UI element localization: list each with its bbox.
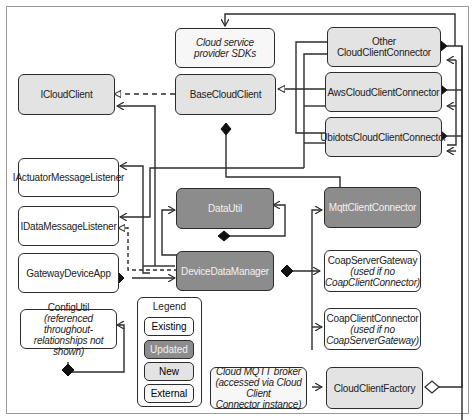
aws-connector-label: AwsCloudClientConnector [328,87,440,98]
coap-client-line3: CoapServerGateway) [326,335,419,346]
ubidots-connector-box: UbidotsCloudClientConnector [325,117,442,157]
iactuator-listener-box: IActuatorMessageListener [18,158,119,197]
iactuator-listener-label: IActuatorMessageListener [13,172,124,183]
device-data-manager-box: DeviceDataManager [176,251,274,291]
icloudclient-box: ICloudClient [18,74,115,115]
coap-client-line2: (used if no [350,324,395,335]
cloud-sdks-line1: Cloud service [196,37,254,48]
cloud-client-factory-box: CloudClientFactory [326,367,423,409]
coap-server-line3: CoapClientConnector) [325,277,420,288]
configutil-line2: (referenced throughout- [21,313,116,335]
configutil-box: ConfigUtil (referenced throughout- relat… [20,309,117,349]
cloud-mqtt-broker-box: Cloud MQTT broker (accessed via Cloud Cl… [210,367,307,409]
cloud-sdks-box: Cloud service provider SDKs [175,28,275,68]
cloud-mqtt-line3: Connector instance) [216,399,302,410]
cloud-client-factory-label: CloudClientFactory [334,383,415,394]
configutil-line1: ConfigUtil [48,302,89,313]
cloud-mqtt-line2: (accessed via Cloud Client [211,377,306,399]
basecloudclient-box: BaseCloudClient [175,74,276,115]
cloud-sdks-line2: provider SDKs [194,48,256,59]
legend-title: Legend [138,301,201,312]
legend-item-updated: Updated [144,340,194,359]
gateway-app-label: GatewayDeviceApp [26,268,111,279]
coap-client-line1: CoapClientConnector [327,313,419,324]
coap-server-line2: (used if no [350,266,395,277]
basecloudclient-label: BaseCloudClient [190,89,262,100]
icloudclient-label: ICloudClient [40,89,92,100]
legend-item-external: External [144,384,194,403]
device-data-manager-label: DeviceDataManager [181,266,269,277]
mqtt-connector-label: MqttClientConnector [329,202,416,213]
legend: Legend Existing Updated New External [137,297,202,407]
ubidots-connector-label: UbidotsCloudClientConnector [320,132,446,143]
coap-server-gateway-box: CoapServerGateway (used if no CoapClient… [324,250,421,292]
datautil-box: DataUtil [176,188,274,229]
idata-listener-label: IDataMessageListener [20,221,116,232]
gateway-app-box: GatewayDeviceApp [18,253,119,293]
legend-item-new: New [144,362,194,381]
aws-connector-box: AwsCloudClientConnector [325,72,442,112]
cloud-mqtt-line1: Cloud MQTT broker [216,366,301,377]
coap-client-connector-box: CoapClientConnector (used if no CoapServ… [324,308,421,350]
mqtt-connector-box: MqttClientConnector [324,187,421,228]
legend-item-existing: Existing [144,317,194,336]
coap-server-line1: CoapServerGateway [328,255,417,266]
datautil-label: DataUtil [208,203,242,214]
idata-listener-box: IDataMessageListener [18,206,119,246]
other-connector-box: Other CloudClientConnector [327,27,441,67]
other-connector-label: Other CloudClientConnector [328,36,440,58]
configutil-line3: relationships not shown) [21,335,116,357]
